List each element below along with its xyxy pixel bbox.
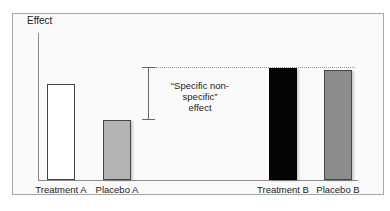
x-label-treatment-a: Treatment A — [35, 184, 86, 195]
x-label-placebo-b: Placebo B — [316, 184, 359, 195]
x-axis — [38, 180, 358, 181]
annotation-line-1: “Specific non-specific” — [155, 80, 245, 102]
bar-placebo-a — [103, 120, 131, 180]
bar-placebo-b — [324, 70, 352, 180]
bracket-bottom — [142, 119, 155, 120]
x-label-treatment-b: Treatment B — [257, 184, 309, 195]
annotation-specific-nonspecific-effect: “Specific non-specific” effect — [155, 80, 245, 113]
bar-treatment-b — [269, 68, 297, 180]
annotation-line-2: effect — [155, 102, 245, 113]
y-axis-label: Effect — [27, 15, 52, 26]
reference-dotted-line — [155, 67, 355, 68]
x-label-placebo-a: Placebo A — [96, 184, 139, 195]
y-axis — [38, 33, 39, 180]
bracket-vertical — [148, 67, 149, 119]
bar-treatment-a — [47, 84, 75, 180]
